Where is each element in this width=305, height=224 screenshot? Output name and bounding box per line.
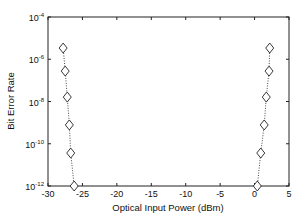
x-tick-label: 5 (286, 189, 291, 199)
y-tick-label: 10-8 (29, 97, 45, 108)
x-tick-label: -30 (41, 189, 54, 199)
plot-area (48, 17, 289, 186)
x-tick-label: -20 (110, 189, 123, 199)
x-tick-label: -15 (145, 189, 158, 199)
x-tick-label: -10 (179, 189, 192, 199)
y-axis-label: Bit Error Rate (5, 72, 16, 130)
ber-chart: -30-25-20-15-10-505 10-410-610-810-1010-… (0, 0, 305, 224)
y-tick-label: 10-4 (29, 12, 45, 23)
x-tick-label: 0 (252, 189, 257, 199)
x-tick-label: -5 (216, 189, 224, 199)
x-axis-label: Optical Input Power (dBm) (112, 202, 223, 213)
x-tick-label: -25 (76, 189, 89, 199)
y-tick-label: 10-6 (29, 54, 45, 65)
y-tick-label: 10-10 (25, 139, 44, 150)
